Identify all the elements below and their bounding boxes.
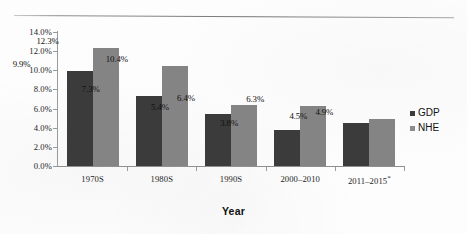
chart-legend: GDP NHE [410, 108, 440, 138]
y-axis-tick-label: 2.0% [34, 142, 52, 152]
bar-value-label: 6.3% [246, 94, 264, 104]
x-axis-tick-mark [335, 167, 336, 171]
bar-value-label: 12.3% [36, 36, 58, 46]
bar-pair [274, 32, 326, 166]
bar-value-label: 4.9% [315, 107, 333, 117]
bar-value-label: 4.5% [289, 111, 307, 121]
bar-nhe[interactable] [93, 48, 119, 166]
x-axis-category-label: 1990S [220, 174, 242, 184]
legend-label-gdp: GDP [418, 108, 440, 118]
x-axis-title: Year [0, 205, 467, 217]
bar-group [274, 32, 326, 166]
bar-value-label: 5.4% [151, 102, 169, 112]
x-axis-tick-mark [266, 167, 267, 171]
bar-value-label: 3.8% [220, 118, 238, 128]
y-axis-tick-label: 4.0% [34, 123, 52, 133]
legend-swatch-nhe-icon [410, 126, 415, 131]
y-axis-tick-label: 8.0% [34, 84, 52, 94]
legend-label-nhe: NHE [418, 123, 439, 133]
x-axis-category-label: 2000–2010 [280, 174, 320, 184]
x-axis-tick-mark [404, 167, 405, 171]
legend-swatch-gdp-icon [410, 111, 415, 116]
bar-pair [67, 32, 119, 166]
bar-value-label: 9.9% [13, 59, 31, 69]
y-axis-tick-label: 0.0% [34, 161, 52, 171]
x-axis-category-label: 1970S [81, 174, 103, 184]
y-axis-tick-label: 10.0% [29, 65, 52, 75]
x-axis-line [57, 166, 405, 167]
y-axis-tick-labels: 0.0%2.0%4.0%6.0%8.0%10.0%12.0%14.0% [8, 0, 52, 234]
bar-gdp[interactable] [274, 130, 300, 166]
grouped-bar-chart: 0.0%2.0%4.0%6.0%8.0%10.0%12.0%14.0% 1970… [0, 0, 467, 234]
legend-item-gdp[interactable]: GDP [410, 108, 440, 118]
x-axis-category-label: 1980S [151, 174, 173, 184]
bar-group [67, 32, 119, 166]
legend-item-nhe[interactable]: NHE [410, 123, 440, 133]
bar-gdp[interactable] [343, 123, 369, 166]
x-axis-tick-mark [127, 167, 128, 171]
y-axis-tick-mark [53, 166, 58, 167]
bar-pair [343, 32, 395, 166]
x-axis-category-label: 2011–2015* [348, 174, 391, 186]
y-axis-tick-label: 6.0% [34, 104, 52, 114]
chart-page: 0.0%2.0%4.0%6.0%8.0%10.0%12.0%14.0% 1970… [0, 0, 467, 234]
bar-nhe[interactable] [369, 119, 395, 166]
bar-group [343, 32, 395, 166]
bar-nhe[interactable] [162, 66, 188, 166]
plot-area [58, 32, 404, 166]
bar-value-label: 10.4% [106, 54, 128, 64]
bar-value-label: 6.4% [177, 93, 195, 103]
bar-nhe[interactable] [231, 105, 257, 166]
x-axis-tick-mark [196, 167, 197, 171]
bar-value-label: 7.3% [82, 84, 100, 94]
y-axis-tick-label: 12.0% [29, 46, 52, 56]
